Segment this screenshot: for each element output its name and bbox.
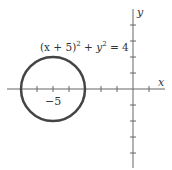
x-axis-label: x [158, 76, 165, 89]
tick-label-neg5: −5 [45, 95, 61, 108]
y-axis-label: y [136, 6, 144, 19]
chart: x y −5 (x + 5)2 + y2 = 4 [0, 0, 172, 170]
equation-label: (x + 5)2 + y2 = 4 [40, 40, 129, 53]
